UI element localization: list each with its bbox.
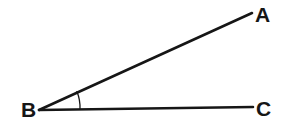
angle-diagram-svg	[0, 0, 285, 134]
geometry-figure-canvas: A B C	[0, 0, 285, 134]
figure-background	[0, 0, 285, 134]
vertex-label-c: C	[256, 98, 271, 119]
vertex-label-a: A	[255, 4, 270, 25]
vertex-label-b: B	[21, 99, 36, 120]
